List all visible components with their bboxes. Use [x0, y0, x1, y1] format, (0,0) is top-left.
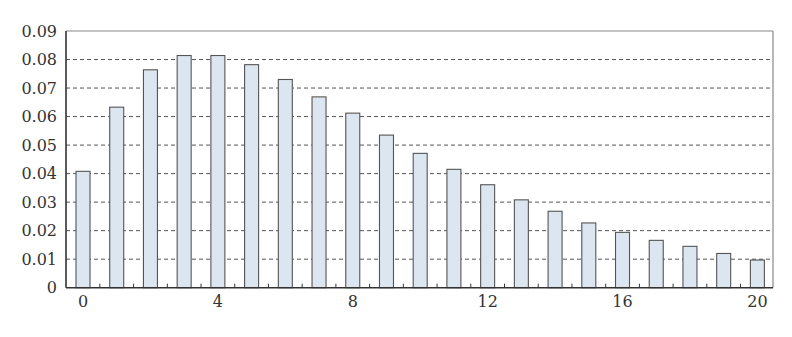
- bar: [413, 153, 427, 287]
- bar: [447, 169, 461, 287]
- x-tick-label: 4: [213, 292, 223, 311]
- bar: [514, 200, 528, 288]
- x-tick-label: 0: [78, 292, 88, 311]
- y-axis-labels: 00.010.020.030.040.050.060.070.080.09: [21, 22, 57, 298]
- bar: [177, 56, 191, 288]
- bar-chart: 00.010.020.030.040.050.060.070.080.09 04…: [0, 0, 792, 337]
- bar: [143, 70, 157, 288]
- x-axis-labels: 048121620: [78, 292, 768, 311]
- x-tick-label: 12: [477, 292, 497, 311]
- y-tick-label: 0.06: [21, 107, 57, 126]
- bar: [481, 185, 495, 288]
- bar: [683, 246, 697, 287]
- y-tick-label: 0.03: [21, 193, 57, 212]
- bars: [76, 56, 764, 288]
- bar: [548, 211, 562, 287]
- bar: [346, 113, 360, 288]
- bar: [245, 65, 259, 288]
- bar: [379, 135, 393, 288]
- bar: [278, 79, 292, 287]
- y-tick-label: 0.09: [21, 22, 57, 41]
- bar: [312, 97, 326, 288]
- y-tick-label: 0.08: [21, 50, 57, 69]
- x-tick-label: 20: [747, 292, 767, 311]
- y-tick-label: 0.04: [21, 164, 57, 183]
- bar: [110, 107, 124, 288]
- bar: [750, 260, 764, 288]
- x-tick-label: 16: [612, 292, 632, 311]
- bar: [582, 223, 596, 288]
- y-tick-label: 0: [47, 278, 57, 297]
- x-tick-label: 8: [348, 292, 358, 311]
- y-tick-label: 0.07: [21, 79, 57, 98]
- bar: [211, 56, 225, 288]
- y-tick-label: 0.01: [21, 250, 57, 269]
- bar: [649, 240, 663, 287]
- y-tick-label: 0.02: [21, 221, 57, 240]
- bar: [76, 171, 90, 287]
- y-tick-label: 0.05: [21, 136, 57, 155]
- bar: [717, 253, 731, 287]
- bar: [616, 232, 630, 287]
